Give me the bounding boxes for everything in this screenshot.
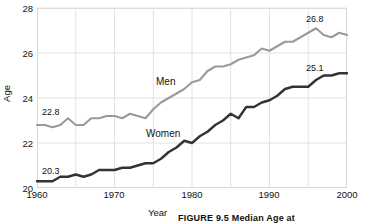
women-start-value-label: 20.3 <box>42 166 60 176</box>
men-end-value-label: 26.8 <box>306 14 324 24</box>
series-label-men: Men <box>156 76 175 87</box>
men-start-value-label: 22.8 <box>42 107 60 117</box>
chart-container: 28 26 24 22 20 Age 1960 1970 1980 1990 2… <box>0 0 367 224</box>
women-end-value-label: 25.1 <box>306 63 324 73</box>
series-label-women: Women <box>146 128 180 139</box>
figure-caption: FIGURE 9.5 Median Age at <box>178 213 367 223</box>
